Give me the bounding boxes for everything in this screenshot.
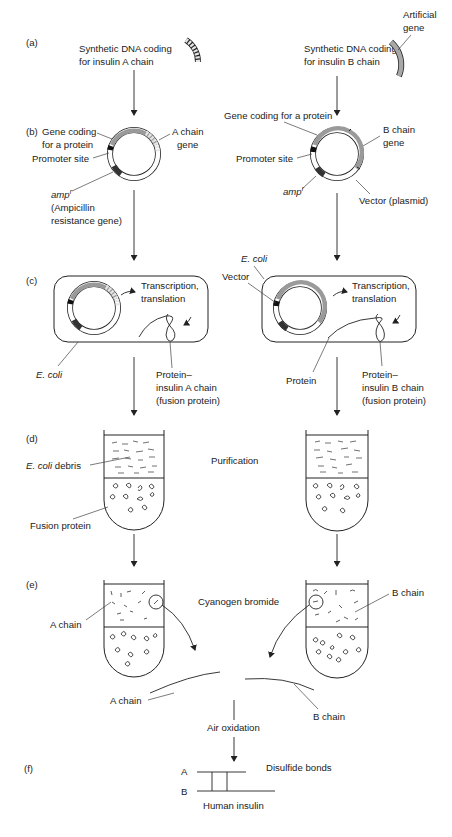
purification-label: Purification <box>211 455 258 466</box>
arrow-b-chain-out <box>270 605 309 657</box>
vector-c-label: Vector <box>222 271 250 282</box>
plasmid-b-icon <box>313 128 362 178</box>
vector-plasmid-label: Vector (plasmid) <box>359 195 428 206</box>
ecoli-right-label: E. coli <box>241 253 268 264</box>
fusion-protein-label: Fusion protein <box>30 520 91 531</box>
step-a-label: (a) <box>26 37 38 48</box>
fusion-protein-a-icon <box>139 314 175 341</box>
ecoli-left-label: E. coli <box>36 369 63 380</box>
fusion-a-line2: insulin A chain <box>156 382 217 393</box>
ecoli-debris-label: E. coli debris <box>26 460 81 471</box>
reaction-tube-left <box>104 580 164 677</box>
artificial-gene-leader <box>398 35 411 50</box>
synthetic-dna-b-line2: for insulin B chain <box>304 56 380 67</box>
plasmid-c-right-icon <box>276 282 325 332</box>
amp-right: ampr <box>283 185 305 197</box>
b-chain-tube-label: B chain <box>392 587 424 598</box>
step-f-label: (f) <box>24 763 33 774</box>
artificial-gene-line2: gene <box>403 22 424 33</box>
step-f: (f) A B Disulfide bonds Human insulin <box>24 762 332 811</box>
b-chain-strand <box>245 678 314 690</box>
promoter-right: Promoter site <box>236 153 293 164</box>
b-chain-gene-line2: gene <box>383 137 404 148</box>
centrifuge-tube-right <box>306 430 368 531</box>
human-insulin-structure <box>197 772 275 791</box>
air-oxidation-label: Air oxidation <box>207 722 260 733</box>
artificial-gene-icon <box>391 42 401 76</box>
step-d-label: (d) <box>26 433 38 444</box>
step-c-label: (c) <box>26 275 37 286</box>
dna-segment-a-icon <box>186 40 198 62</box>
gene-coding-left-line2: for a protein <box>42 139 93 150</box>
insulin-production-diagram: (a) Synthetic DNA coding for insulin A c… <box>0 0 452 837</box>
protein-label: Protein <box>286 375 316 386</box>
step-b: (b) Gene coding for a protein Promoter s… <box>26 110 428 260</box>
b-chain-gene-line1: B chain <box>383 124 415 135</box>
human-insulin-label: Human insulin <box>203 800 264 811</box>
step-b-label: (b) <box>26 126 38 137</box>
fusion-a-line3: (fusion protein) <box>156 395 220 406</box>
step-a: (a) Synthetic DNA coding for insulin A c… <box>26 9 437 115</box>
transcription-right-line2: translation <box>352 293 396 304</box>
arrow-a-chain-out <box>162 605 195 650</box>
gene-coding-right: Gene coding for a protein <box>224 110 332 121</box>
promoter-left: Promoter site <box>32 153 89 164</box>
amp-left: ampr <box>51 188 73 200</box>
a-chain-out-label: A chain <box>110 695 141 706</box>
a-chain-gene-line1: A chain <box>172 126 203 137</box>
artificial-gene-line1: Artificial <box>403 9 437 20</box>
cyanogen-bromide-label: Cyanogen bromide <box>198 596 279 607</box>
centrifuge-tube-left <box>104 430 164 530</box>
a-chain-strand <box>150 672 220 693</box>
fusion-protein-b-icon <box>328 314 384 342</box>
amp-desc-line2: resistance gene) <box>51 215 122 226</box>
a-chain-tube-label: A chain <box>50 619 81 630</box>
fusion-a-line1: Protein– <box>156 369 192 380</box>
step-d: (d) E. coli debris Fusion protein Purifi… <box>26 430 368 566</box>
chain-a-letter: A <box>181 766 188 777</box>
step-e: (e) A chain Cyanogen bromide <box>26 579 424 761</box>
synthetic-dna-a-line1: Synthetic DNA coding <box>79 43 172 54</box>
step-c: (c) Transcription, translation E. coli P… <box>26 253 426 415</box>
chain-b-letter: B <box>181 786 187 797</box>
synthetic-dna-b-line1: Synthetic DNA coding <box>304 43 397 54</box>
a-chain-gene-line2: gene <box>177 139 198 150</box>
amp-desc-line1: (Ampicillin <box>51 202 95 213</box>
fusion-b-line2: insulin B chain <box>362 382 424 393</box>
fusion-b-line1: Protein– <box>362 369 398 380</box>
transcription-right-line1: Transcription, <box>352 280 410 291</box>
gene-coding-left-line1: Gene coding <box>42 126 96 137</box>
transcription-left-line1: Transcription, <box>141 280 199 291</box>
step-e-label: (e) <box>26 579 38 590</box>
disulfide-bonds-label: Disulfide bonds <box>266 762 332 773</box>
plasmid-a-icon <box>110 130 158 178</box>
synthetic-dna-a-line2: for insulin A chain <box>79 56 154 67</box>
fusion-b-line3: (fusion protein) <box>362 395 426 406</box>
plasmid-c-left-icon <box>70 284 118 332</box>
b-chain-out-label: B chain <box>313 711 345 722</box>
transcription-left-line2: translation <box>141 293 185 304</box>
reaction-tube-right <box>306 580 368 678</box>
